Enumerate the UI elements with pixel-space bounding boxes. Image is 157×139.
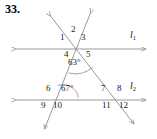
line-label-l2: l2	[130, 81, 136, 91]
angle-label-11: 11	[102, 101, 111, 110]
angle-measure-63: 63°	[68, 58, 81, 67]
angle-label-6: 6	[46, 84, 51, 93]
angle-label-10: 10	[53, 101, 62, 110]
angle-label-12: 12	[119, 101, 128, 110]
angle-label-1: 1	[60, 33, 65, 42]
line-label-l1-subscript: 1	[133, 34, 136, 41]
problem-figure-page: 33. 1 2 3 4 5 6 7 8 9 10 11 12 63°	[0, 0, 157, 139]
line-label-l1: l1	[130, 30, 136, 40]
line-label-l2-subscript: 2	[133, 85, 136, 92]
angle-arc-63	[69, 67, 94, 74]
angle-label-7: 7	[101, 84, 106, 93]
angle-measure-67: 67°	[61, 84, 74, 93]
angle-label-2: 2	[71, 25, 76, 34]
transversal-a	[45, 13, 91, 129]
angle-label-8: 8	[117, 84, 122, 93]
geometry-figure	[0, 0, 157, 139]
angle-label-9: 9	[41, 101, 46, 110]
angle-label-5: 5	[86, 50, 91, 59]
angle-label-3: 3	[81, 33, 86, 42]
